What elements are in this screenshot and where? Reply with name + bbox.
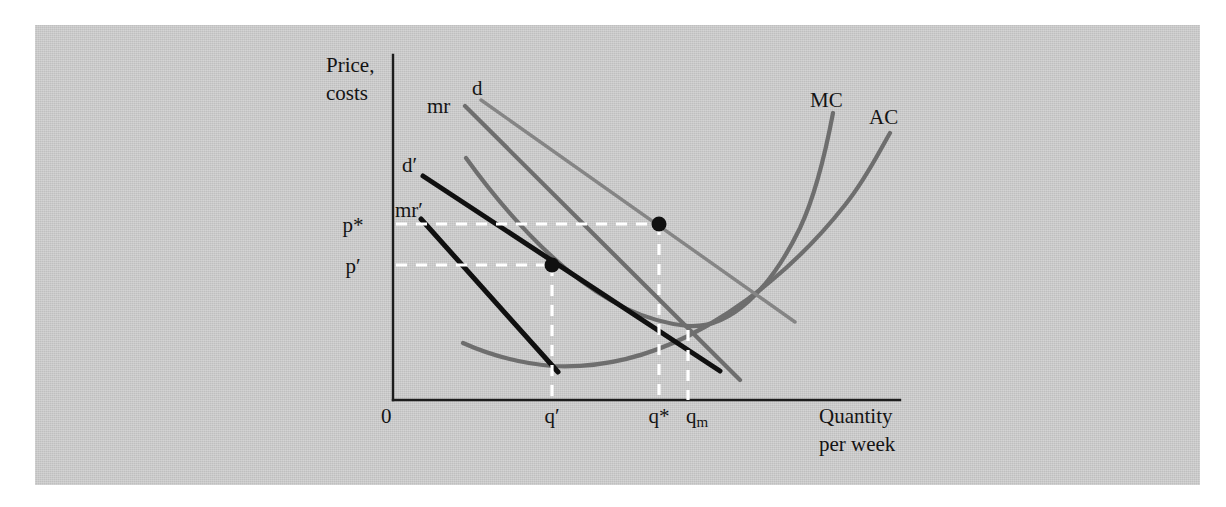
quantity-tick-q-prime: q′	[544, 404, 559, 428]
price-tick-p-prime: p′	[345, 254, 360, 278]
quantity-tick-q-m-base: q	[686, 404, 697, 428]
quantity-tick-q-star: q*	[649, 404, 670, 428]
origin-label: 0	[381, 404, 392, 428]
price-tick-p-star: p*	[343, 213, 364, 237]
curve-label-d-prime: d′	[402, 153, 417, 177]
demand-curve-d	[481, 100, 795, 322]
equilibrium-dot-monopoly	[652, 217, 667, 232]
y-axis-label-line2: costs	[326, 81, 368, 105]
guide-lines-group	[396, 224, 688, 400]
curve-label-d: d	[472, 76, 483, 100]
marginal-revenue-curve-mr	[465, 106, 740, 380]
monopolistic-competition-figure: Price, costs Quantity per week 0 p* p′ q…	[0, 0, 1226, 507]
curve-label-ac: AC	[869, 105, 898, 129]
equilibrium-dot-zero-profit	[545, 258, 560, 273]
quantity-tick-q-m: qm	[686, 404, 709, 430]
curve-label-mr-prime: mr′	[395, 198, 423, 222]
quantity-tick-q-m-subscript: m	[697, 414, 709, 430]
plot-canvas: Price, costs Quantity per week 0 p* p′ q…	[0, 0, 1226, 507]
curve-label-mr: mr	[427, 94, 450, 118]
curve-label-mc: MC	[810, 88, 843, 112]
y-axis-label-line1: Price,	[326, 53, 374, 77]
x-axis-label-line1: Quantity	[819, 404, 893, 428]
demand-lines-group	[421, 100, 795, 380]
x-axis-label-line2: per week	[819, 432, 896, 456]
